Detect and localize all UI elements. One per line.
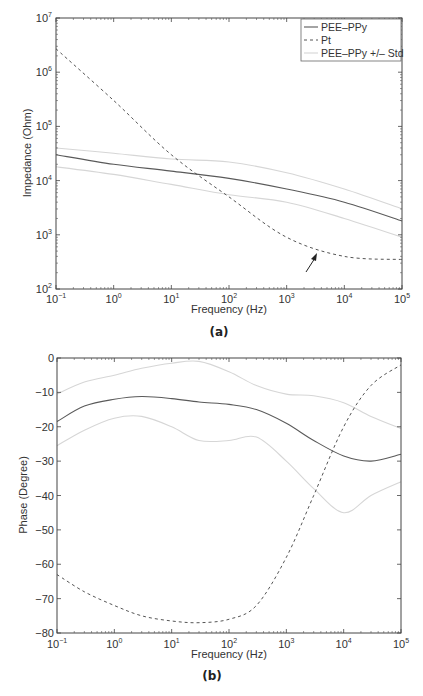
tick-label: 106 [36, 65, 52, 78]
tick-label: −30 [35, 455, 54, 467]
phase-chart: 10−1100101102103104105 0−10−20−30−40−50−… [17, 352, 409, 683]
tick-label: 103 [36, 228, 52, 241]
tick-label: −50 [35, 524, 54, 536]
legend-label-std: PEE–PPy +/– Std [321, 47, 404, 59]
phase-x-axis-label: Frequency (Hz) [191, 648, 267, 660]
panel-label-b: (b) [202, 669, 222, 683]
tick-label: 10−1 [46, 292, 66, 305]
tick-label: −40 [35, 490, 54, 502]
impedance-x-axis-label: Frequency (Hz) [191, 303, 267, 315]
tick-label: 105 [393, 637, 409, 650]
impedance-std-band-lines [56, 148, 402, 237]
tick-label: 103 [279, 292, 295, 305]
std-line [57, 361, 401, 429]
impedance-y-axis-label: Impedance (Ohm) [21, 109, 33, 198]
tick-label: 104 [336, 637, 352, 650]
tick-label: −10 [35, 386, 54, 398]
pt-phase-line [57, 365, 401, 623]
tick-label: 105 [394, 292, 410, 305]
tick-label: 0 [48, 352, 54, 364]
tick-label: 104 [336, 292, 352, 305]
legend-label-pee-ppy: PEE–PPy [321, 21, 368, 33]
std-line [57, 416, 401, 513]
legend: PEE–PPy Pt PEE–PPy +/– Std [301, 19, 404, 61]
phase-plot-frame [57, 358, 401, 633]
std-line [56, 167, 402, 238]
tick-label: 105 [36, 119, 52, 132]
tick-label: 103 [278, 637, 294, 650]
legend-label-pt: Pt [321, 34, 331, 46]
phase-std-band-lines [57, 361, 401, 513]
tick-label: −80 [35, 627, 54, 639]
tick-label: 100 [106, 637, 122, 650]
tick-label: 101 [164, 637, 180, 650]
figure: 10−1100101102103104105 10210310410510610… [0, 0, 423, 696]
pee-ppy-impedance-line [56, 155, 402, 221]
tick-label: −70 [35, 593, 54, 605]
arrow-annotation [306, 253, 317, 272]
tick-label: 107 [36, 11, 52, 24]
tick-label: −20 [35, 421, 54, 433]
tick-label: 100 [106, 292, 122, 305]
panel-label-a: (a) [209, 325, 228, 339]
pt-impedance-line [56, 49, 402, 260]
tick-label: 101 [163, 292, 179, 305]
phase-y-axis-label: Phase (Degree) [17, 456, 29, 534]
impedance-chart: 10−1100101102103104105 10210310410510610… [21, 11, 410, 339]
tick-label: 104 [36, 174, 52, 187]
pee-ppy-phase-line [57, 396, 401, 461]
tick-label: −60 [35, 558, 54, 570]
phase-y-ticks: 0−10−20−30−40−50−60−70−80 [35, 352, 401, 639]
